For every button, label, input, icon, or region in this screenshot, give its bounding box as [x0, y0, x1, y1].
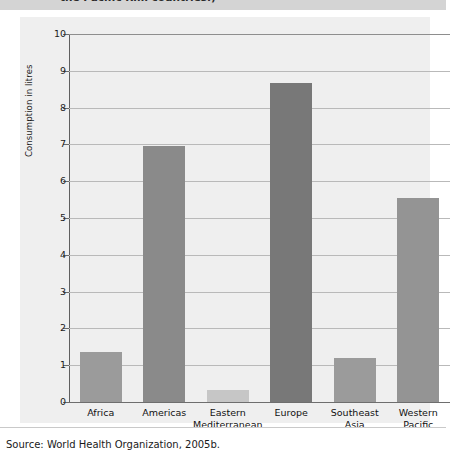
bar [80, 352, 122, 402]
gridline [69, 328, 450, 329]
figure-container: Consumption in litres 109876543210 Afric… [0, 13, 446, 427]
gridline [69, 71, 450, 72]
bar [143, 146, 185, 402]
bar [334, 358, 376, 402]
y-axis-tick-label: 8 [26, 102, 66, 113]
source-note: Source: World Health Organization, 2005b… [6, 439, 220, 450]
y-axis-tick-label: 6 [26, 175, 66, 186]
source-strip: Source: World Health Organization, 2005b… [0, 427, 446, 461]
y-axis-tick-label: 1 [26, 359, 66, 370]
caption-strip: the Pacific Rim countries.) [0, 0, 446, 10]
bar [397, 198, 439, 402]
gridline [69, 108, 450, 109]
gridline [69, 292, 450, 293]
gridline [69, 34, 450, 35]
bar [207, 390, 249, 402]
y-axis-tick-label: 5 [26, 212, 66, 223]
y-axis-tick-label: 10 [26, 28, 66, 39]
gridline [69, 181, 450, 182]
y-axis-tick-label: 7 [26, 138, 66, 149]
bar-chart: Consumption in litres 109876543210 Afric… [20, 17, 430, 423]
plot-area: 109876543210 [69, 34, 450, 402]
gridline [69, 218, 450, 219]
y-axis-tick-label: 0 [26, 396, 66, 407]
y-axis-tick-label: 2 [26, 322, 66, 333]
gridline [69, 365, 450, 366]
gridline [69, 144, 450, 145]
caption-clipped-text: the Pacific Rim countries.) [60, 0, 216, 3]
bar [270, 83, 312, 402]
y-axis-tick-label: 4 [26, 249, 66, 260]
y-axis-tick-label: 3 [26, 286, 66, 297]
gridline [69, 255, 450, 256]
y-axis-tick-label: 9 [26, 65, 66, 76]
gridline [69, 402, 450, 403]
